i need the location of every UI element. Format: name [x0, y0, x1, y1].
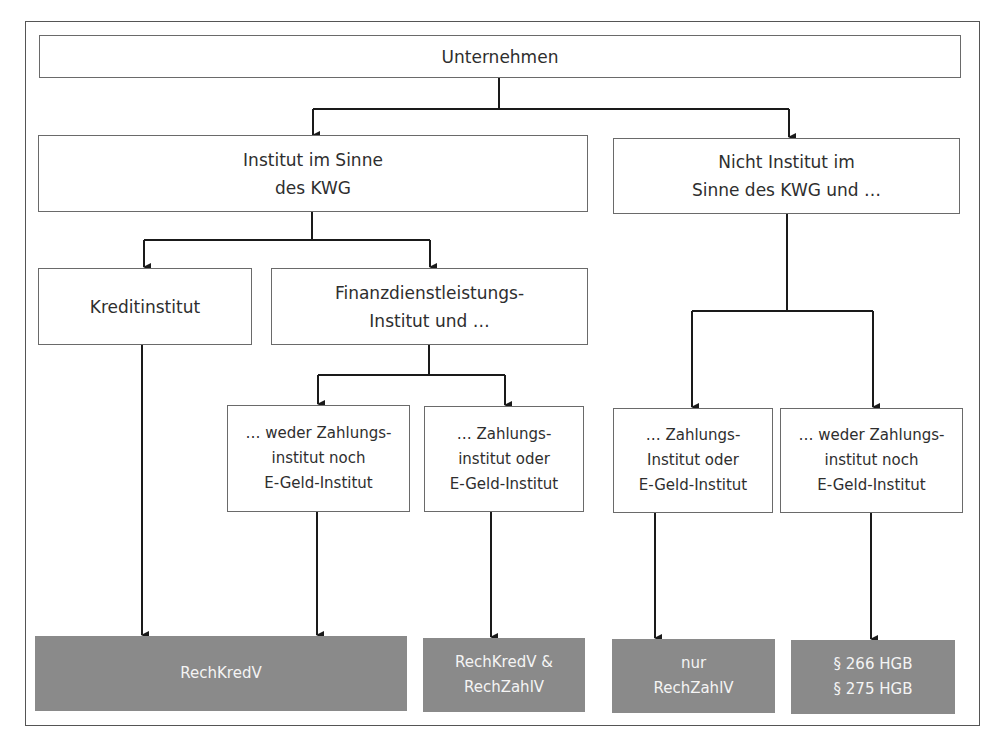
node-finanz-weder-zahlungsinstitut: … weder Zahlungs- institut noch E-Geld-I…	[227, 405, 410, 512]
diagram-frame	[25, 21, 980, 726]
node-label: Finanzdienstleistungs- Institut und …	[335, 279, 524, 335]
node-label: Kreditinstitut	[90, 293, 200, 321]
outcome-hgb: § 266 HGB § 275 HGB	[791, 640, 955, 714]
node-label: Institut im Sinne des KWG	[243, 146, 383, 202]
outcome-rechkredv: RechKredV	[35, 636, 407, 711]
node-label: … Zahlungs- Institut oder E-Geld-Institu…	[639, 423, 747, 498]
outcome-label: § 266 HGB § 275 HGB	[834, 652, 913, 702]
node-label: Nicht Institut im Sinne des KWG und …	[692, 148, 881, 204]
node-label: Unternehmen	[442, 43, 559, 71]
outcome-label: RechKredV & RechZahlV	[455, 650, 553, 700]
outcome-label: nur RechZahlV	[653, 651, 733, 701]
node-nicht-weder-zahlungsinstitut: … weder Zahlungs- institut noch E-Geld-I…	[780, 408, 963, 513]
node-nicht-zahlungsinstitut: … Zahlungs- Institut oder E-Geld-Institu…	[613, 408, 773, 513]
outcome-rechkredv-rechzahlv: RechKredV & RechZahlV	[423, 638, 585, 712]
node-finanzdienstleistungsinstitut: Finanzdienstleistungs- Institut und …	[271, 268, 588, 345]
node-label: … weder Zahlungs- institut noch E-Geld-I…	[246, 421, 392, 496]
node-unternehmen: Unternehmen	[39, 35, 961, 78]
node-finanz-zahlungsinstitut: … Zahlungs- institut oder E-Geld-Institu…	[424, 406, 584, 512]
node-nicht-institut-kwg: Nicht Institut im Sinne des KWG und …	[613, 138, 960, 214]
node-institut-kwg: Institut im Sinne des KWG	[38, 135, 588, 212]
node-kreditinstitut: Kreditinstitut	[38, 268, 252, 345]
outcome-nur-rechzahlv: nur RechZahlV	[612, 639, 775, 713]
outcome-label: RechKredV	[180, 661, 261, 686]
node-label: … weder Zahlungs- institut noch E-Geld-I…	[799, 423, 945, 498]
node-label: … Zahlungs- institut oder E-Geld-Institu…	[450, 422, 558, 497]
